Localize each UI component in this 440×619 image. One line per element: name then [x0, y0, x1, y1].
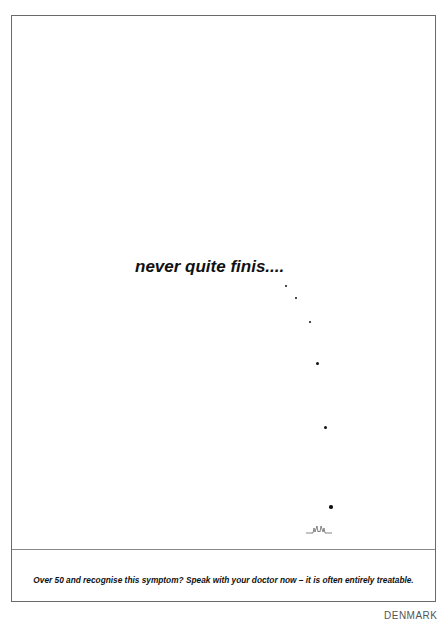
- drip-dot: [324, 426, 327, 429]
- drip-dot: [285, 285, 287, 287]
- drip-dot: [329, 505, 333, 509]
- country-label: DENMARK: [384, 610, 438, 619]
- advert-frame: Over 50 and recognise this symptom? Spea…: [11, 15, 436, 602]
- tagline-text: Over 50 and recognise this symptom? Spea…: [12, 575, 435, 585]
- drip-dot: [295, 297, 297, 299]
- headline-text: never quite finis....: [135, 257, 284, 277]
- drip-dot: [316, 362, 319, 365]
- droplet-splash-icon: [306, 520, 332, 534]
- floor-divider-line: [12, 549, 435, 550]
